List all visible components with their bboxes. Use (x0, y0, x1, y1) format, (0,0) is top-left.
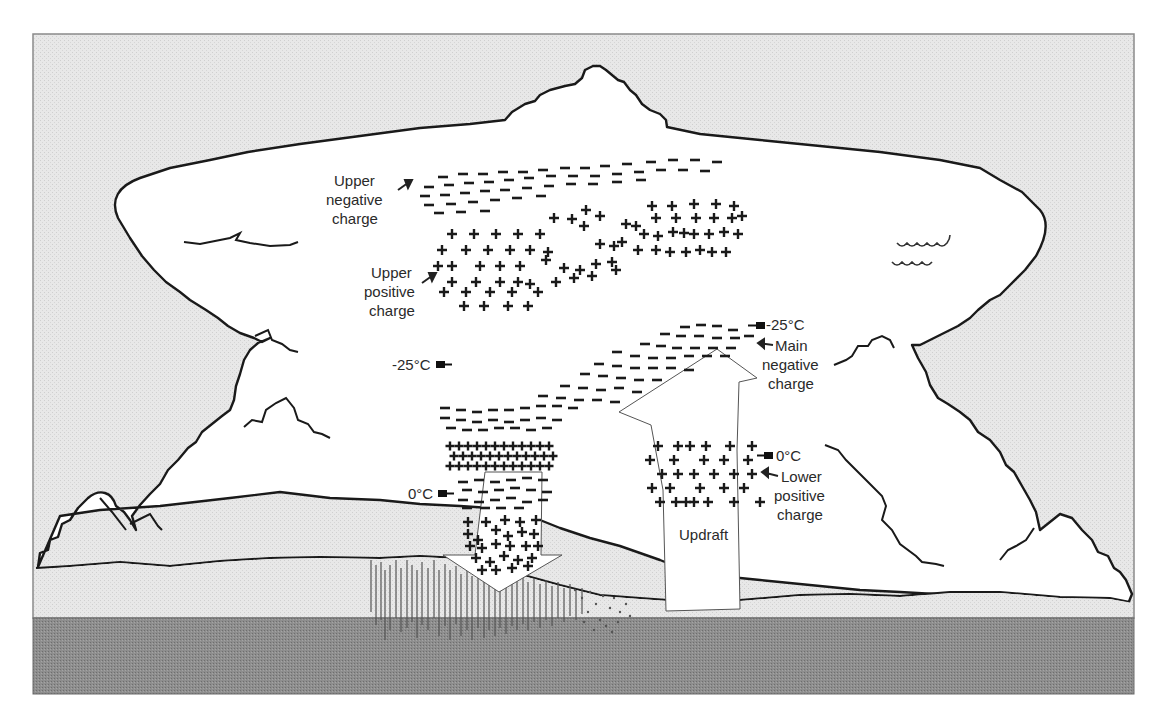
label-updraft: Updraft (679, 526, 729, 543)
svg-text:positive: positive (774, 487, 825, 504)
svg-text:Main: Main (775, 337, 808, 354)
svg-text:negative: negative (326, 191, 383, 208)
svg-text:-25°C: -25°C (392, 356, 431, 373)
svg-text:negative: negative (762, 356, 819, 373)
svg-text:Upper: Upper (371, 264, 412, 281)
svg-text:charge: charge (777, 506, 823, 523)
svg-text:Lower: Lower (781, 468, 822, 485)
svg-text:positive: positive (364, 283, 415, 300)
svg-text:0°C: 0°C (776, 447, 801, 464)
svg-text:charge: charge (369, 302, 415, 319)
ground (33, 618, 1134, 694)
svg-text:-25°C: -25°C (766, 316, 805, 333)
svg-text:charge: charge (768, 375, 814, 392)
svg-text:0°C: 0°C (408, 485, 433, 502)
svg-text:charge: charge (332, 210, 378, 227)
lower-positive-band-left (446, 442, 558, 471)
thunderstorm-charge-diagram: -25°C 0°C -25°C 0°C Upper negative charg… (0, 0, 1166, 722)
svg-text:Upper: Upper (334, 172, 375, 189)
